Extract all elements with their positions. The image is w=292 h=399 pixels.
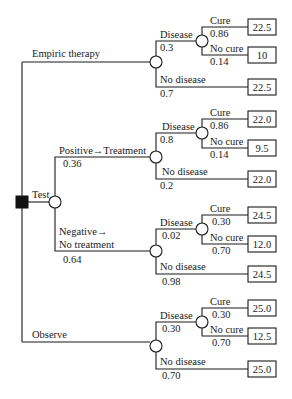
outcome-value: 9.5	[255, 143, 268, 154]
chance-node-positive-disease	[196, 127, 208, 139]
prob-disease: 0.8	[160, 134, 173, 145]
prob-no-disease: 0.7	[160, 88, 173, 99]
chance-node-empiric-disease	[196, 35, 208, 47]
prob-no-cure: 0.14	[210, 149, 229, 160]
outcome-value: 22.5	[253, 82, 271, 93]
label-negative: Negative→	[59, 226, 107, 237]
prob-no-cure: 0.14	[210, 56, 229, 67]
label-no-disease: No disease	[162, 166, 208, 177]
outcome-value: 22.5	[253, 22, 271, 33]
label-empiric: Empiric therapy	[32, 48, 101, 59]
label-disease: Disease	[160, 310, 193, 321]
chance-node-observe	[150, 340, 162, 352]
outcome-value: 22.0	[253, 174, 271, 185]
outcome-value: 24.5	[253, 210, 271, 221]
label-cure: Cure	[210, 203, 231, 214]
label-disease: Disease	[162, 121, 195, 132]
label-no-disease: No disease	[160, 261, 206, 272]
chance-node-observe-disease	[196, 316, 208, 328]
chance-node-empiric	[150, 56, 162, 68]
outcome-value: 24.5	[253, 269, 271, 280]
label-cure: Cure	[210, 296, 231, 307]
label-positive-treatment: Positive→Treatment	[59, 145, 146, 156]
outcome-value: 22.0	[253, 114, 271, 125]
prob-no-disease: 0.2	[160, 180, 173, 191]
prob-no-cure: 0.70	[212, 337, 230, 348]
outcome-value: 25.0	[253, 364, 271, 375]
label-test: Test	[32, 189, 49, 200]
chance-node-negative	[150, 245, 162, 257]
label-no-disease: No disease	[160, 74, 206, 85]
label-disease: Disease	[160, 217, 193, 228]
outcome-value: 12.5	[253, 331, 271, 342]
label-cure: Cure	[210, 15, 231, 26]
prob-cure: 0.86	[210, 120, 228, 131]
label-observe: Observe	[32, 329, 67, 340]
outcome-value: 25.0	[253, 303, 271, 314]
prob-cure: 0.86	[210, 28, 228, 39]
prob-disease: 0.3	[160, 42, 173, 53]
prob-positive: 0.36	[63, 158, 81, 169]
prob-negative: 0.64	[63, 254, 82, 265]
prob-no-disease: 0.70	[162, 370, 180, 381]
label-no-disease: No disease	[160, 356, 206, 367]
prob-disease: 0.30	[162, 323, 180, 334]
chance-node-negative-disease	[196, 223, 208, 235]
decision-tree: Empiric therapy Disease 0.3 No disease 0…	[0, 0, 292, 399]
prob-no-cure: 0.70	[212, 245, 230, 256]
decision-node	[16, 196, 28, 208]
chance-node-positive	[150, 151, 162, 163]
label-cure: Cure	[210, 107, 231, 118]
prob-disease: 0.02	[162, 230, 180, 241]
outcome-value: 10	[257, 50, 268, 61]
label-no-treatment: No treatment	[59, 239, 114, 250]
label-no-cure: No cure	[210, 136, 244, 147]
label-no-cure: No cure	[210, 324, 244, 335]
prob-cure: 0.30	[212, 309, 230, 320]
label-disease: Disease	[160, 29, 193, 40]
chance-node-test	[49, 196, 61, 208]
prob-no-disease: 0.98	[162, 276, 180, 287]
outcome-value: 12.0	[253, 239, 271, 250]
label-no-cure: No cure	[210, 43, 244, 54]
prob-cure: 0.30	[212, 216, 230, 227]
label-no-cure: No cure	[210, 232, 244, 243]
